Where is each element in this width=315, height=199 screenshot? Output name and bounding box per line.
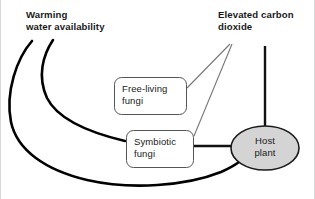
node-label-free-living-fungi: Free-living fungi — [122, 83, 167, 106]
edge-warming-to-symbiotic-fungi — [42, 40, 125, 141]
node-label-host-plant: Host plant — [231, 135, 299, 158]
driver-label-warming-water-availability: Warming water availability — [26, 9, 105, 33]
edge-co2-to-free-living-fungi — [187, 44, 230, 88]
driver-label-elevated-carbon-dioxide: Elevated carbon dioxide — [218, 9, 294, 33]
concept-diagram: Warming water availability Elevated carb… — [0, 0, 315, 199]
node-label-symbiotic-fungi: Symbiotic fungi — [134, 136, 176, 159]
edge-co2-to-symbiotic-fungi — [194, 44, 232, 136]
